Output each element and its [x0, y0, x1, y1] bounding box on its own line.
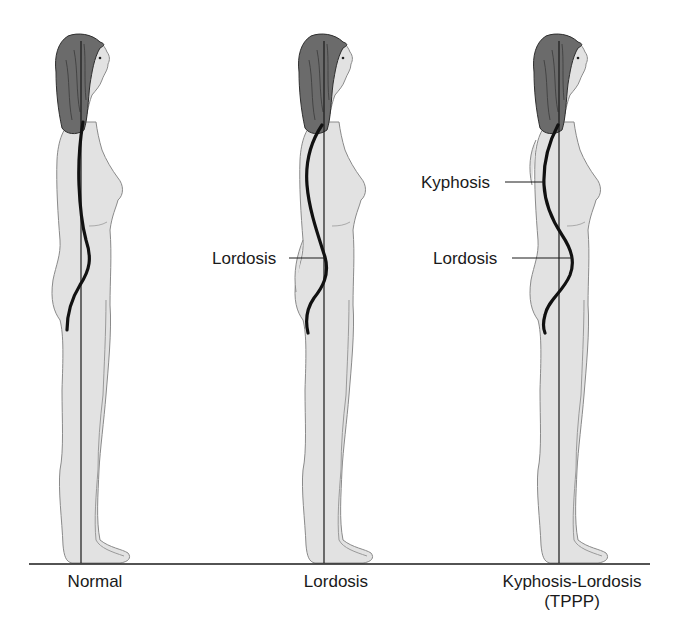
caption-lordosis: Lordosis [304, 573, 368, 590]
body-silhouette [52, 34, 130, 563]
caption-tppp: (TPPP) [544, 593, 600, 610]
figure-kyphosis-lordosis [505, 34, 608, 563]
body-silhouette [295, 34, 373, 563]
caption-kyphosis-lordosis: Kyphosis-Lordosis [503, 573, 642, 590]
posture-diagram [0, 0, 677, 633]
lordosis-callout-label: Lordosis [212, 250, 276, 267]
figure-normal [52, 34, 130, 563]
body-silhouette [530, 34, 608, 563]
lordosis-callout-label: Lordosis [433, 250, 497, 267]
figure-lordosis [289, 34, 373, 563]
caption-normal: Normal [68, 573, 123, 590]
kyphosis-callout-label: Kyphosis [421, 174, 490, 191]
